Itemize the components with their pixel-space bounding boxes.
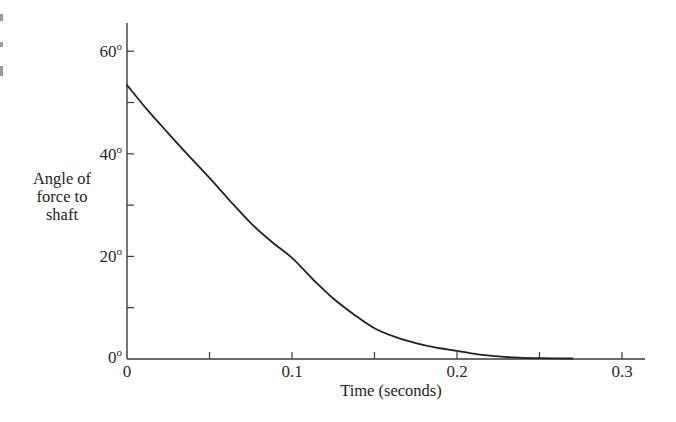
chart: 0o20o40o60o 00.10.20.3 Time (seconds) An… [0,0,676,422]
plot-area: 0o20o40o60o 00.10.20.3 [100,23,646,381]
x-tick-label: 0 [123,362,132,381]
x-axis-ticks: 00.10.20.3 [123,352,633,381]
page-edge-marks [0,14,3,76]
x-axis-title: Time (seconds) [340,381,442,400]
y-axis-title-line-1: Angle of [33,169,92,188]
y-axis-ticks: 0o20o40o60o [100,40,135,367]
data-line [127,85,573,358]
y-tick-label: 40o [100,143,123,164]
x-tick-label: 0.3 [611,362,632,381]
y-tick-label: 20o [100,245,123,266]
y-axis-title-line-2: force to [37,187,88,206]
x-tick-label: 0.1 [281,362,302,381]
x-tick-label: 0.2 [446,362,467,381]
y-axis-title-line-3: shaft [46,205,78,224]
y-tick-label: 60o [100,40,123,61]
y-axis-title: Angle of force to shaft [33,169,92,224]
y-tick-label: 0o [108,346,123,367]
